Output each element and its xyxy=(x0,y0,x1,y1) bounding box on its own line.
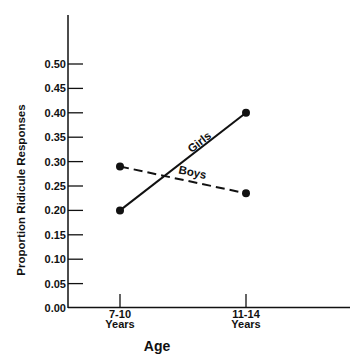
y-tick-label: 0.50 xyxy=(45,58,66,70)
x-ticks: 7-10Years11-14Years xyxy=(105,294,260,330)
y-tick-label: 0.45 xyxy=(45,82,66,94)
y-tick-label: 0.35 xyxy=(45,131,66,143)
data-point-marker xyxy=(242,109,250,117)
series-labels: GirlsBoys xyxy=(178,129,214,181)
line-chart: 0.000.050.100.150.200.250.300.350.400.45… xyxy=(0,0,363,364)
y-tick-label: 0.10 xyxy=(45,253,66,265)
y-ticks: 0.000.050.100.150.200.250.300.350.400.45… xyxy=(45,58,83,314)
y-tick-label: 0.00 xyxy=(45,302,66,314)
series-line-girls xyxy=(120,113,246,211)
data-point-marker xyxy=(242,189,250,197)
y-tick-label: 0.20 xyxy=(45,204,66,216)
x-tick-label: Years xyxy=(105,318,134,330)
y-tick-label: 0.05 xyxy=(45,278,66,290)
y-tick-label: 0.25 xyxy=(45,180,66,192)
y-tick-label: 0.30 xyxy=(45,156,66,168)
x-tick-label: Years xyxy=(231,318,260,330)
series-label-boys: Boys xyxy=(178,163,208,181)
series-lines xyxy=(116,109,250,215)
x-axis-title: Age xyxy=(144,338,171,354)
y-tick-label: 0.15 xyxy=(45,229,66,241)
y-tick-label: 0.40 xyxy=(45,107,66,119)
data-point-marker xyxy=(116,206,124,214)
y-axis-title: Proportion Ridicule Responses xyxy=(15,104,27,275)
data-point-marker xyxy=(116,162,124,170)
